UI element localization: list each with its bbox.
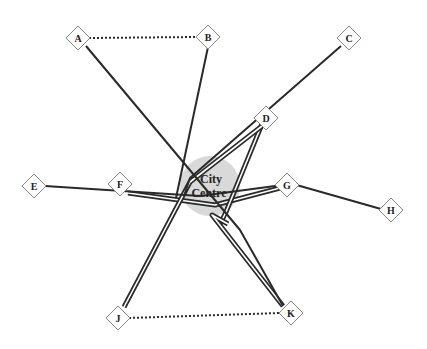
node-G: G (275, 173, 299, 197)
node-J: J (106, 306, 130, 330)
node-H: H (379, 198, 403, 222)
double-route-J-D (124, 126, 262, 307)
dotted-route-A-B (89, 37, 197, 38)
node-label: F (117, 179, 123, 190)
node-label: K (287, 308, 295, 319)
node-label: H (387, 205, 395, 216)
node-label: C (345, 33, 352, 44)
node-B: B (196, 25, 220, 49)
node-label: D (262, 113, 269, 124)
node-label: G (283, 180, 291, 191)
node-label: B (205, 32, 212, 43)
city-centre-label-line1: City (200, 172, 222, 186)
city-centre-label-line2: Centre (191, 186, 227, 200)
dotted-route-J-K (129, 313, 280, 318)
node-label: A (74, 33, 82, 44)
node-label: J (116, 313, 121, 324)
node-E: E (22, 174, 46, 198)
transport-network-diagram: ABCDEFGHJK City Centre (0, 0, 427, 349)
double-route-K-city (212, 215, 283, 306)
node-label: E (31, 181, 38, 192)
